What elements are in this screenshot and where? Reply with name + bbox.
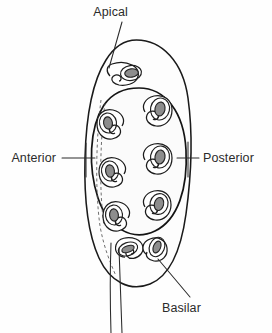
ring-organelle	[99, 158, 126, 187]
ring-organelle-group-right	[143, 96, 172, 220]
ring-organelle	[143, 96, 172, 126]
ring-organelle	[143, 144, 172, 174]
flagellum	[110, 243, 111, 333]
basilar-label: Basilar	[162, 301, 201, 315]
ring-organelle	[143, 191, 171, 220]
apical-label: Apical	[93, 5, 128, 19]
basilar-leader-line	[158, 259, 190, 297]
anterior-label: Anterior	[11, 151, 56, 165]
ring-organelle	[97, 110, 124, 139]
figure-root: Apical Anterior Posterior Basilar	[0, 0, 272, 333]
cell-orientation-diagram: Apical Anterior Posterior Basilar	[0, 0, 272, 333]
label-basilar-group: Basilar	[158, 259, 201, 315]
ring-organelle	[103, 202, 130, 231]
label-anterior-group: Anterior	[11, 143, 95, 177]
posterior-label: Posterior	[203, 151, 254, 165]
